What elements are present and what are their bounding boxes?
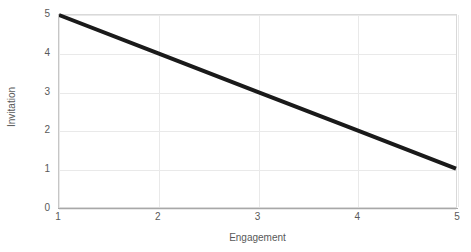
y-tick-label: 2 <box>44 125 50 135</box>
y-axis-title: Invitation <box>6 62 18 152</box>
gridline-vertical <box>458 15 459 207</box>
x-tick-label: 1 <box>55 212 61 222</box>
data-line-layer <box>59 15 456 207</box>
gridline-horizontal <box>59 209 456 210</box>
x-tick-label: 4 <box>354 212 360 222</box>
chart-figure: 012345 12345 Engagement Invitation <box>0 0 471 252</box>
x-tick-label: 2 <box>155 212 161 222</box>
y-tick-label: 1 <box>44 164 50 174</box>
x-axis-spine <box>58 208 458 209</box>
y-tick-label: 3 <box>44 87 50 97</box>
x-axis-tick-labels: 12345 <box>0 212 471 226</box>
plot-area <box>58 14 457 208</box>
x-axis-title: Engagement <box>58 232 457 244</box>
y-tick-label: 4 <box>44 48 50 58</box>
x-tick-label: 3 <box>255 212 261 222</box>
data-line-series-invitation <box>59 15 456 169</box>
y-tick-label: 5 <box>44 9 50 19</box>
y-axis-spine <box>58 14 59 209</box>
x-tick-label: 5 <box>454 212 460 222</box>
